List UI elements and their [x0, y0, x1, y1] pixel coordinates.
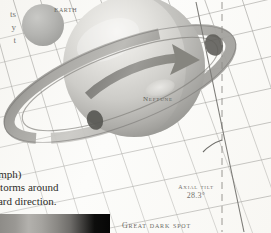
edge-text-line-3: t — [0, 34, 16, 47]
great-dark-spot-caption: Great dark spot — [122, 218, 191, 230]
edge-text-line-2: y — [0, 21, 16, 34]
tilt-angle-arc-icon — [203, 140, 222, 152]
axial-tilt-value: 28.3° — [160, 192, 232, 201]
body-text-line-1: 0 mph) — [0, 168, 120, 181]
figure-page: Earth — [0, 0, 271, 233]
body-text-block: 0 mph) t storms around ward direction. — [0, 168, 120, 208]
great-dark-spot-photo — [0, 214, 110, 233]
body-text-line-3: ward direction. — [0, 195, 120, 208]
edge-text-line-1: ts — [0, 8, 16, 21]
edge-text-block: ts y t — [0, 8, 16, 47]
body-text-line-2: t storms around — [0, 181, 120, 194]
axial-tilt-caption: Axial tilt 28.3° — [160, 182, 232, 200]
